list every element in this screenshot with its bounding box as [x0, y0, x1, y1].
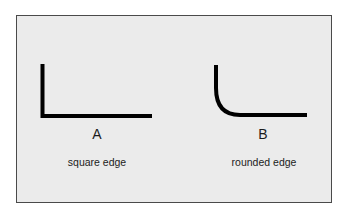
edge-shapes [0, 0, 342, 214]
panel-a-caption: square edge [55, 156, 139, 168]
panel-b-letter: B [246, 126, 280, 142]
panel-a-letter: A [80, 126, 114, 142]
panel-b-caption: rounded edge [221, 156, 307, 168]
rounded-edge-shape [216, 65, 307, 115]
square-edge-shape [43, 64, 153, 116]
